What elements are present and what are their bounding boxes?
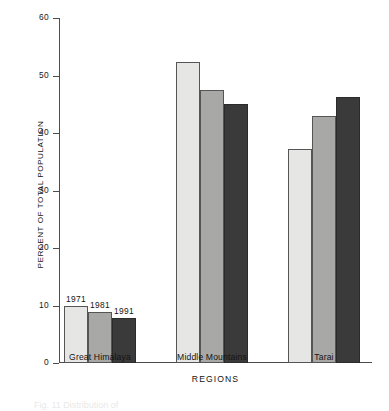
- category-label: Middle Mountains: [176, 352, 248, 362]
- category-label: Great Himalaya: [64, 352, 136, 362]
- figure-caption: Fig. 11 Distribution of: [34, 400, 118, 410]
- y-tick-40: 40: [53, 133, 59, 134]
- bar: [312, 116, 336, 363]
- y-tick-0: 0: [53, 363, 59, 364]
- series-year-label: 1991: [114, 306, 134, 316]
- y-tick-label: 0: [44, 357, 49, 367]
- y-tick-label: 10: [39, 300, 49, 310]
- y-tick-label: 30: [39, 185, 49, 195]
- y-tick-50: 50: [53, 76, 59, 77]
- y-tick-label: 40: [39, 127, 49, 137]
- y-tick-20: 20: [53, 248, 59, 249]
- series-year-label: 1971: [66, 294, 86, 304]
- y-axis-line: [59, 18, 60, 363]
- y-tick-30: 30: [53, 191, 59, 192]
- bar: [336, 97, 360, 363]
- bar: [224, 104, 248, 363]
- x-axis-title: REGIONS: [59, 374, 372, 384]
- y-tick-60: 60: [53, 18, 59, 19]
- y-axis-title: PERCENT OF TOTAL POPULATION: [36, 85, 45, 305]
- bar-chart-figure: PERCENT OF TOTAL POPULATION 010203040506…: [0, 0, 389, 411]
- plot-area: 0102030405060 197119811991: [59, 18, 372, 363]
- bar: [200, 90, 224, 363]
- series-year-label: 1981: [90, 300, 110, 310]
- category-label: Tarai: [288, 352, 360, 362]
- y-tick-label: 60: [39, 12, 49, 22]
- y-tick-10: 10: [53, 306, 59, 307]
- bar: [288, 149, 312, 363]
- y-tick-label: 20: [39, 242, 49, 252]
- y-tick-label: 50: [39, 70, 49, 80]
- bar: [176, 62, 200, 363]
